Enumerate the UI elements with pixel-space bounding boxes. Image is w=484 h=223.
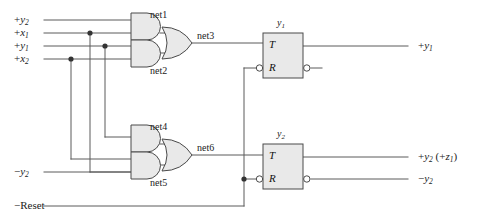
junction-dot-x2 <box>68 56 73 61</box>
net-label-net4: net4 <box>150 122 167 132</box>
input-label-x2-plus: +x2 <box>14 53 29 64</box>
flipflop-y1-pin-t: T <box>269 39 275 50</box>
input-label-reset: −Reset <box>14 200 45 211</box>
junction-dot-y1 <box>102 43 107 48</box>
flipflop-y2-title: y2 <box>277 129 285 139</box>
net-label-net3: net3 <box>197 31 214 41</box>
bubble-output-y1 <box>304 65 310 71</box>
net-label-net1: net1 <box>150 10 167 20</box>
net-label-net6: net6 <box>197 143 214 153</box>
or-gate-net6 <box>162 139 192 171</box>
gate-group-bottom <box>131 125 192 179</box>
junction-dot-reset <box>241 176 246 181</box>
flipflop-y2-pin-r: R <box>269 173 276 184</box>
flipflop-y1-pin-r: R <box>269 62 276 73</box>
input-label-y2-plus: +y2 <box>14 14 29 25</box>
input-label-y2-minus: −y2 <box>14 166 29 177</box>
net-label-net2: net2 <box>150 66 167 76</box>
or-gate-net3 <box>162 27 192 59</box>
output-label-y1-plus: +y1 <box>418 40 433 51</box>
flipflop-y2-pin-t: T <box>269 150 275 161</box>
bubble-output-y2 <box>304 176 310 182</box>
output-label-y2-plus-z1: +y2 (+z1) <box>418 151 457 162</box>
input-label-y1-plus: +y1 <box>14 40 29 51</box>
junction-dot-x1 <box>87 30 92 35</box>
flipflop-y1-title: y1 <box>277 18 285 28</box>
output-label-y2-minus: −y2 <box>418 173 433 184</box>
bubble-r-input-y2 <box>256 176 262 182</box>
gate-group-top <box>131 13 192 67</box>
circuit-diagram <box>0 0 484 223</box>
net-label-net5: net5 <box>150 178 167 188</box>
input-label-x1-plus: +x1 <box>14 27 29 38</box>
and-gate-net2 <box>131 40 161 67</box>
bubble-r-input-y1 <box>256 65 262 71</box>
and-gate-net5 <box>131 152 161 179</box>
